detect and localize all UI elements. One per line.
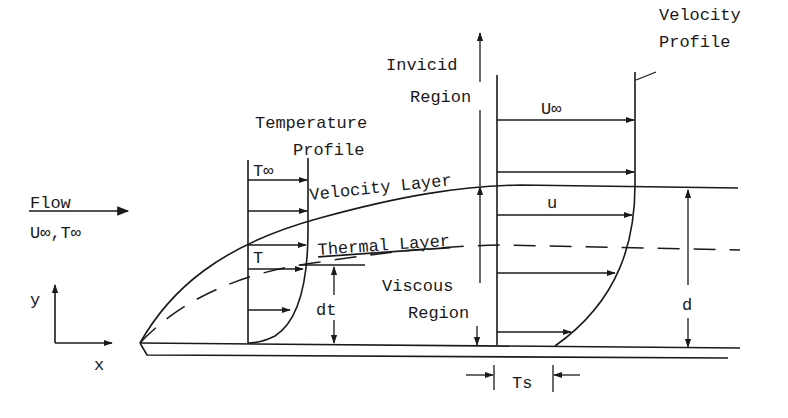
- viscous-label-1: Viscous: [382, 277, 453, 296]
- invicid-label-1: Invicid: [386, 56, 457, 75]
- y-axis-label: y: [30, 291, 40, 310]
- coordinate-axes: y x: [30, 285, 112, 375]
- viscous-label-2: Region: [408, 304, 469, 323]
- velocity-profile-title-1: Velocity: [659, 6, 741, 25]
- flow-label: Flow: [30, 194, 72, 213]
- velocity-profile-title-2: Profile: [659, 33, 730, 52]
- velocity-profile-leader: [636, 72, 656, 80]
- plate-top-surface: [140, 343, 740, 348]
- flow-conditions: U∞,T∞: [30, 224, 81, 243]
- d-label: d: [682, 296, 692, 315]
- thermal-thickness-dimension: dt: [300, 265, 365, 343]
- t-infinity-label: T∞: [253, 162, 273, 181]
- boundary-layer-diagram: Flow U∞,T∞ y x Temperature Profile T∞ T …: [0, 0, 788, 418]
- t-label: T: [253, 249, 263, 268]
- temperature-profile-title-1: Temperature: [255, 114, 367, 133]
- invicid-label-2: Region: [410, 88, 471, 107]
- u-label: u: [547, 194, 557, 213]
- velocity-thickness-dimension: d: [682, 190, 692, 347]
- u-infinity-label: U∞: [541, 100, 561, 119]
- temperature-profile: Temperature Profile T∞ T: [248, 114, 367, 343]
- temperature-profile-title-2: Profile: [293, 141, 364, 160]
- dt-label: dt: [316, 301, 336, 320]
- ts-label: Ts: [512, 374, 532, 393]
- thermal-layer-label: Thermal Layer: [317, 232, 451, 260]
- velocity-layer-label: Velocity Layer: [309, 171, 453, 205]
- flat-plate: [140, 343, 740, 358]
- ts-dimension: Ts: [466, 365, 580, 393]
- flow-indicator: Flow U∞,T∞: [29, 194, 128, 243]
- x-axis-label: x: [94, 356, 104, 375]
- velocity-profile: Velocity Profile U∞ u: [497, 6, 741, 346]
- velocity-profile-curve: [555, 72, 635, 346]
